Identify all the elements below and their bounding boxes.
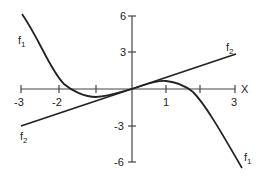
y-tick-label--3: -3 [114,120,124,132]
y-tick-label--6: -6 [114,156,124,168]
f2-label-lower-left: f2 [20,130,28,145]
axes [21,16,235,162]
x-tick-label-3: 3 [231,96,237,108]
x-tick-label--2: -2 [52,96,62,108]
function-plot: -3 -2 1 3 X 6 3 -3 -6 f1 f1 f2 f2 [0,0,266,178]
y-tick-label-6: 6 [120,10,126,22]
y-tick-label-3: 3 [120,46,126,58]
f1-label-upper-left: f1 [18,34,26,49]
f1-label-lower-right: f1 [244,151,252,166]
f2-label-upper-right: f2 [226,41,234,56]
x-axis-label: X [241,83,249,95]
x-tick-label-1: 1 [163,96,169,108]
x-tick-label--3: -3 [14,96,24,108]
